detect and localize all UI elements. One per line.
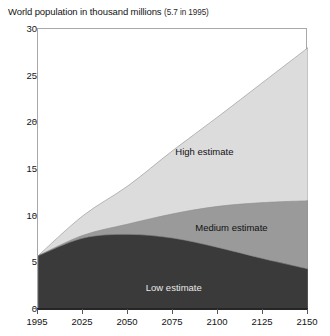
x-tick-label: 1995	[26, 316, 47, 327]
x-tick-mark	[307, 309, 308, 314]
series-label-low-estimate: Low estimate	[146, 281, 202, 292]
y-axis: 051015202530	[0, 0, 37, 336]
y-tick-label: 30	[13, 23, 37, 34]
chart-title-note: (5.7 in 1995)	[164, 8, 209, 17]
x-tick-label: 2100	[206, 316, 227, 327]
x-tick-label: 2125	[251, 316, 272, 327]
x-tick-mark	[127, 309, 128, 314]
y-tick-mark	[32, 261, 36, 262]
x-tick-mark	[217, 309, 218, 314]
plot-area	[37, 28, 307, 308]
x-tick-label: 2150	[296, 316, 317, 327]
y-tick-mark	[32, 75, 36, 76]
x-tick-mark	[82, 309, 83, 314]
x-tick-label: 2075	[161, 316, 182, 327]
x-tick-mark	[262, 309, 263, 314]
chart-container: World population in thousand millions (5…	[0, 0, 330, 336]
y-tick-mark	[32, 215, 36, 216]
series-label-medium-estimate: Medium estimate	[195, 221, 267, 232]
area-chart-svg	[38, 29, 308, 309]
y-tick-mark	[32, 121, 36, 122]
chart-title: World population in thousand millions (5…	[8, 6, 209, 17]
x-tick-mark	[172, 309, 173, 314]
x-tick-mark	[37, 309, 38, 314]
y-tick-mark	[32, 308, 36, 309]
x-tick-label: 2050	[116, 316, 137, 327]
y-tick-mark	[32, 168, 36, 169]
x-tick-label: 2025	[71, 316, 92, 327]
series-label-high-estimate: High estimate	[175, 146, 233, 157]
